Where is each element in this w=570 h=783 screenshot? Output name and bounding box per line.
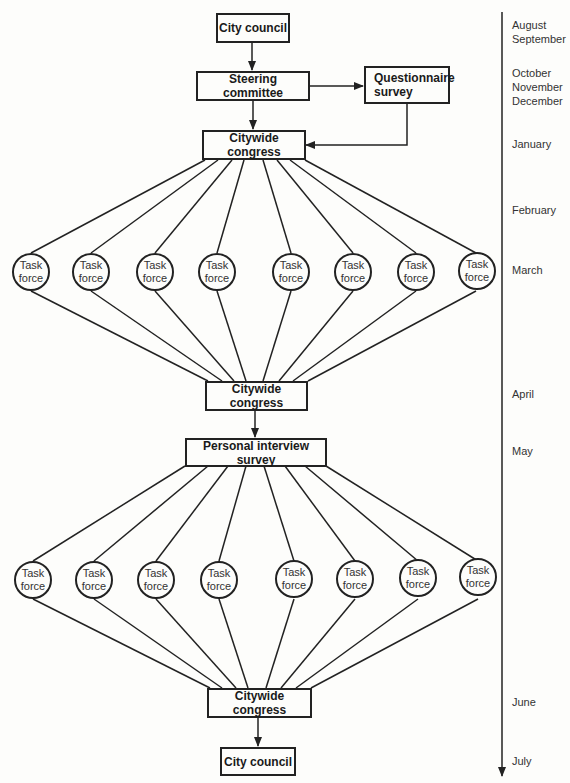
task-force-label-line2: force	[21, 580, 45, 593]
task-force-node: Task force	[399, 559, 437, 597]
task-force-label-line1: Task	[80, 259, 103, 272]
task-force-node: Task force	[72, 253, 110, 291]
task-force-label-line1: Task	[466, 258, 489, 271]
task-force-node: Task force	[458, 252, 496, 290]
task-force-label-line2: force	[143, 272, 167, 285]
task-force-node: Task force	[336, 560, 374, 598]
task-force-node: Task force	[198, 253, 236, 291]
task-force-node: Task force	[275, 560, 313, 598]
task-force-label-line2: force	[466, 577, 490, 590]
task-force-label-line1: Task	[144, 259, 167, 272]
task-force-label-line1: Task	[467, 564, 490, 577]
task-force-label-line2: force	[341, 272, 365, 285]
task-force-label-line2: force	[82, 580, 106, 593]
timeline-month-february: February	[512, 203, 556, 217]
timeline-month-january: January	[512, 137, 551, 151]
task-force-label-line2: force	[279, 272, 303, 285]
task-force-label-line2: force	[404, 272, 428, 285]
task-force-label-line1: Task	[83, 567, 106, 580]
timeline-month-aug-sep: August September	[512, 18, 566, 46]
task-force-label-line1: Task	[22, 567, 45, 580]
timeline-month-march: March	[512, 263, 543, 277]
timeline-month-april: April	[512, 387, 534, 401]
task-force-label-line1: Task	[283, 566, 306, 579]
task-force-label-line1: Task	[407, 565, 430, 578]
task-force-label-line1: Task	[145, 567, 168, 580]
task-force-label-line2: force	[205, 272, 229, 285]
task-force-label-line1: Task	[20, 259, 43, 272]
task-force-label-line2: force	[343, 579, 367, 592]
task-force-node: Task force	[334, 253, 372, 291]
timeline-month-may: May	[512, 444, 533, 458]
city-council-top-node: City council	[216, 13, 290, 43]
questionnaire-survey-node: Questionnaire survey	[364, 66, 450, 104]
task-force-node: Task force	[272, 253, 310, 291]
citywide-congress-2-node: Citywide congress	[205, 381, 308, 411]
personal-interview-survey-node: Personal interview survey	[185, 438, 327, 467]
citywide-congress-3-node: Citywide congress	[207, 688, 312, 718]
task-force-label-line2: force	[144, 580, 168, 593]
task-force-node: Task force	[200, 561, 238, 599]
task-force-label-line1: Task	[344, 566, 367, 579]
task-force-label-line2: force	[465, 271, 489, 284]
city-council-bottom-node: City council	[220, 747, 296, 776]
timeline-month-oct-dec: October November December	[512, 66, 563, 108]
task-force-node: Task force	[136, 253, 174, 291]
steering-committee-node: Steering committee	[196, 71, 310, 101]
task-force-label-line2: force	[79, 272, 103, 285]
task-force-label-line1: Task	[208, 567, 231, 580]
task-force-label-line1: Task	[405, 259, 428, 272]
citywide-congress-1-node: Citywide congress	[202, 130, 306, 160]
diagram-canvas: City council Steering committee Question…	[0, 0, 570, 783]
task-force-label-line2: force	[282, 579, 306, 592]
timeline-month-june: June	[512, 695, 536, 709]
task-force-node: Task force	[137, 561, 175, 599]
timeline-month-july: July	[512, 754, 532, 768]
task-force-label-line1: Task	[280, 259, 303, 272]
task-force-node: Task force	[75, 561, 113, 599]
task-force-node: Task force	[12, 253, 50, 291]
task-force-node: Task force	[14, 561, 52, 599]
task-force-label-line2: force	[207, 580, 231, 593]
task-force-label-line1: Task	[206, 259, 229, 272]
task-force-label-line2: force	[19, 272, 43, 285]
task-force-node: Task force	[459, 558, 497, 596]
task-force-node: Task force	[397, 253, 435, 291]
task-force-label-line1: Task	[342, 259, 365, 272]
task-force-label-line2: force	[406, 578, 430, 591]
